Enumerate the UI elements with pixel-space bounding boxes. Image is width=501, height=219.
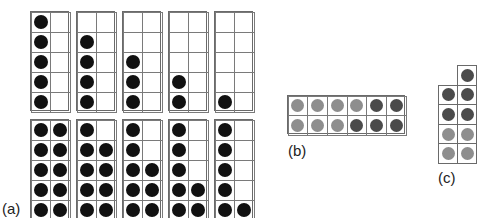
- frame-cell: [142, 92, 163, 113]
- frame-cell: [307, 115, 328, 136]
- frame-cell: [188, 72, 209, 93]
- frame-cell: [31, 92, 52, 113]
- counter-dot: [218, 203, 232, 217]
- frame-cell: [31, 160, 52, 181]
- frame-cell: [169, 72, 190, 93]
- light-counter-dot: [461, 147, 474, 160]
- counter-dot: [218, 163, 232, 177]
- counter-dot: [172, 183, 186, 197]
- frame-cell: [457, 104, 477, 125]
- ten-frame-bottom-8: [122, 119, 161, 218]
- counter-dot: [34, 163, 48, 177]
- counter-dot: [80, 35, 94, 49]
- frame-cell: [50, 32, 71, 53]
- frame-cell: [77, 52, 98, 73]
- frame-cell: [96, 200, 117, 219]
- frame-cell: [215, 92, 236, 113]
- frame-cell: [307, 96, 328, 117]
- counter-dot: [80, 95, 94, 109]
- frame-cell: [366, 96, 387, 117]
- counter-dot: [34, 123, 48, 137]
- frame-cell: [457, 124, 477, 145]
- frame-cell: [123, 52, 144, 73]
- frame-cell: [188, 200, 209, 219]
- frame-cell: [327, 96, 348, 117]
- light-counter-dot: [442, 128, 455, 141]
- frame-cell: [142, 200, 163, 219]
- frame-cell: [438, 104, 458, 125]
- counter-dot: [237, 203, 251, 217]
- counter-dot: [191, 183, 205, 197]
- frame-cell: [215, 140, 236, 161]
- light-counter-dot: [350, 99, 363, 112]
- frame-cell: [123, 32, 144, 53]
- counter-dot: [34, 75, 48, 89]
- ten-frame-top-4: [76, 11, 115, 111]
- dark-counter-dot: [461, 108, 474, 121]
- counter-dot: [80, 183, 94, 197]
- counter-dot: [80, 163, 94, 177]
- frame-cell: [50, 160, 71, 181]
- frame-cell: [77, 92, 98, 113]
- counter-dot: [126, 75, 140, 89]
- counter-dot: [172, 75, 186, 89]
- counter-dot: [34, 55, 48, 69]
- counter-dot: [80, 75, 94, 89]
- frame-cell: [438, 85, 458, 106]
- counter-dot: [80, 123, 94, 137]
- ten-frame-top-1: [214, 11, 253, 111]
- frame-cell: [288, 115, 309, 136]
- frame-cell: [169, 120, 190, 141]
- frame-cell: [31, 12, 52, 33]
- dark-counter-dot: [461, 88, 474, 101]
- frame-cell: [188, 52, 209, 73]
- dark-counter-dot: [390, 119, 403, 132]
- counter-dot: [80, 143, 94, 157]
- frame-cell: [234, 72, 255, 93]
- frame-cell: [123, 200, 144, 219]
- frame-cell: [234, 200, 255, 219]
- frame-cell: [327, 115, 348, 136]
- frame-cell: [215, 200, 236, 219]
- frame-cell: [50, 92, 71, 113]
- frame-cell: [142, 12, 163, 33]
- counter-dot: [53, 143, 67, 157]
- counter-dot: [80, 55, 94, 69]
- counter-dot: [53, 203, 67, 217]
- light-counter-dot: [311, 99, 324, 112]
- counter-dot: [34, 15, 48, 29]
- light-counter-dot: [331, 99, 344, 112]
- counter-dot: [80, 203, 94, 217]
- frame-cell: [188, 140, 209, 161]
- counter-dot: [34, 143, 48, 157]
- frame-cell: [215, 12, 236, 33]
- counter-dot: [218, 183, 232, 197]
- dark-counter-dot: [370, 119, 383, 132]
- counter-dot: [172, 95, 186, 109]
- frame-cell: [169, 12, 190, 33]
- frame-cell: [288, 96, 309, 117]
- frame-cell: [386, 96, 407, 117]
- frame-cell: [123, 160, 144, 181]
- frame-cell: [457, 143, 477, 164]
- counter-dot: [126, 143, 140, 157]
- frame-cell: [142, 160, 163, 181]
- light-counter-dot: [311, 119, 324, 132]
- frame-cell: [123, 180, 144, 201]
- dark-counter-dot: [350, 119, 363, 132]
- counter-dot: [99, 163, 113, 177]
- counter-dot: [99, 143, 113, 157]
- frame-cell: [169, 180, 190, 201]
- frame-cell: [123, 120, 144, 141]
- frame-cell: [169, 140, 190, 161]
- frame-cell: [77, 140, 98, 161]
- frame-cell: [77, 72, 98, 93]
- panel-b-label: (b): [288, 143, 306, 158]
- frame-cell: [386, 115, 407, 136]
- frame-cell: [96, 120, 117, 141]
- frame-cell: [188, 92, 209, 113]
- ten-frame-bottom-9: [76, 119, 115, 218]
- frame-cell: [142, 180, 163, 201]
- counter-dot: [34, 95, 48, 109]
- frame-cell: [347, 96, 368, 117]
